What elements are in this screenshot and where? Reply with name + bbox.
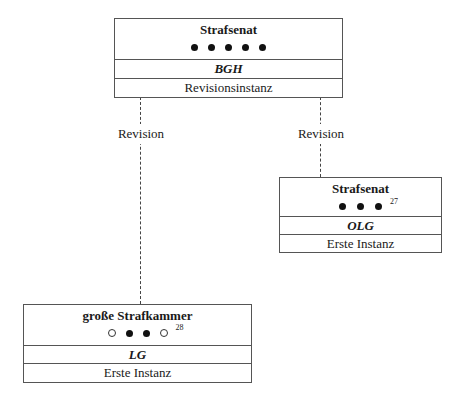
node-olg-title: Strafsenat bbox=[280, 178, 441, 196]
node-bgh-instance: Revisionsinstanz bbox=[115, 79, 342, 97]
edge-label-lg-bgh: Revision bbox=[118, 124, 164, 144]
judge-dot-filled bbox=[259, 44, 266, 51]
node-lg-title: große Strafkammer bbox=[24, 305, 251, 323]
judge-dot-empty bbox=[160, 329, 168, 337]
edge-label-olg-bgh: Revision bbox=[298, 124, 344, 144]
footnote-marker: 27 bbox=[390, 197, 398, 206]
node-lg-instance: Erste Instanz bbox=[24, 364, 251, 382]
node-bgh: Strafsenat BGH Revisionsinstanz bbox=[114, 18, 343, 98]
node-lg-header: große Strafkammer 28 bbox=[24, 305, 251, 346]
node-bgh-title: Strafsenat bbox=[115, 19, 342, 37]
judge-dot-filled bbox=[375, 203, 382, 210]
judge-dot-filled bbox=[339, 203, 346, 210]
judge-dot-filled bbox=[126, 330, 133, 337]
node-olg: Strafsenat 27 OLG Erste Instanz bbox=[279, 177, 442, 253]
judge-dot-filled bbox=[191, 44, 198, 51]
judge-dot-filled bbox=[143, 330, 150, 337]
node-lg: große Strafkammer 28 LG Erste Instanz bbox=[23, 304, 252, 383]
node-bgh-court: BGH bbox=[115, 60, 342, 79]
judge-dot-empty bbox=[108, 329, 116, 337]
judge-dot-filled bbox=[225, 44, 232, 51]
node-olg-dots: 27 bbox=[280, 196, 441, 216]
node-olg-court: OLG bbox=[280, 217, 441, 235]
judge-dot-filled bbox=[357, 203, 364, 210]
footnote-marker: 28 bbox=[176, 323, 184, 332]
node-lg-dots: 28 bbox=[24, 323, 251, 343]
node-olg-header: Strafsenat 27 bbox=[280, 178, 441, 217]
node-bgh-header: Strafsenat bbox=[115, 19, 342, 60]
node-olg-instance: Erste Instanz bbox=[280, 235, 441, 252]
node-bgh-dots bbox=[115, 37, 342, 57]
judge-dot-filled bbox=[242, 44, 249, 51]
judge-dot-filled bbox=[208, 44, 215, 51]
node-lg-court: LG bbox=[24, 346, 251, 364]
